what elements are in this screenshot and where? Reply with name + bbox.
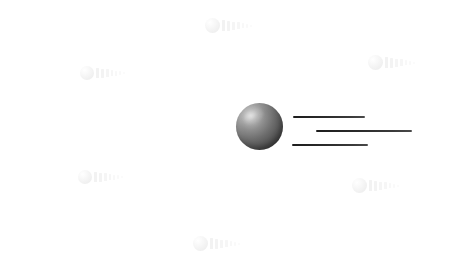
watermark-ball-icon <box>205 18 220 33</box>
watermark-trail-bar <box>246 24 248 28</box>
watermark-trail-bar <box>225 240 228 247</box>
watermark-trail-bar <box>215 239 218 249</box>
watermark-trail-bar <box>220 240 223 248</box>
watermark-ball-icon <box>352 178 367 193</box>
watermark-trail-bar <box>242 23 244 28</box>
watermark-trail-bar <box>379 182 382 190</box>
watermark-trail-bar <box>409 61 411 65</box>
watermark-ball-icon <box>368 55 383 70</box>
watermark-trail-icon <box>367 180 399 191</box>
watermark-trail-bar <box>121 176 123 178</box>
watermark-top-center <box>205 18 252 33</box>
watermark-trail-bar <box>230 241 232 246</box>
ball-graphic <box>236 103 283 150</box>
watermark-trail-bar <box>123 72 125 74</box>
watermark-trail-bar <box>227 21 230 31</box>
watermark-trail-bar <box>113 175 115 180</box>
speed-line-bottom <box>292 144 368 146</box>
watermark-ball-icon <box>80 66 94 80</box>
watermark-trail-bar <box>115 71 117 76</box>
watermark-trail-bar <box>238 243 240 245</box>
watermark-trail-bar <box>232 22 235 30</box>
watermark-trail-bar <box>390 58 393 68</box>
watermark-trail-bar <box>413 62 415 64</box>
watermark-right-upper <box>368 55 415 70</box>
watermark-trail-bar <box>384 182 387 189</box>
watermark-trail-bar <box>106 69 109 77</box>
watermark-left-upper <box>80 66 125 80</box>
watermark-trail-bar <box>117 175 119 179</box>
watermark-trail-bar <box>395 59 398 67</box>
watermark-trail-icon <box>94 68 125 78</box>
watermark-trail-bar <box>96 68 99 78</box>
watermark-right-lower <box>352 178 399 193</box>
watermark-trail-bar <box>393 184 395 188</box>
watermark-trail-bar <box>210 238 213 249</box>
illustration-canvas <box>0 0 459 273</box>
watermark-trail-bar <box>234 242 236 246</box>
watermark-trail-bar <box>250 25 252 27</box>
watermark-trail-bar <box>101 69 104 78</box>
watermark-trail-bar <box>400 59 403 66</box>
watermark-trail-bar <box>119 71 121 75</box>
watermark-trail-bar <box>104 173 107 181</box>
watermark-trail-bar <box>397 185 399 187</box>
watermark-trail-bar <box>237 22 240 29</box>
watermark-trail-bar <box>99 173 102 182</box>
watermark-trail-icon <box>92 172 123 182</box>
watermark-ball-icon <box>193 236 208 251</box>
watermark-trail-icon <box>208 238 240 249</box>
watermark-trail-bar <box>389 183 391 188</box>
watermark-bottom-center <box>193 236 240 251</box>
watermark-ball-icon <box>78 170 92 184</box>
watermark-trail-bar <box>111 70 113 76</box>
speed-line-middle <box>316 130 412 132</box>
watermark-trail-icon <box>220 20 252 31</box>
watermark-trail-icon <box>383 57 415 68</box>
watermark-trail-bar <box>405 60 407 65</box>
watermark-trail-bar <box>374 181 377 191</box>
watermark-trail-bar <box>385 57 388 68</box>
watermark-trail-bar <box>369 180 372 191</box>
watermark-trail-bar <box>94 172 97 182</box>
watermark-left-lower <box>78 170 123 184</box>
speed-line-top <box>293 116 365 118</box>
watermark-trail-bar <box>109 174 111 180</box>
watermark-trail-bar <box>222 20 225 31</box>
